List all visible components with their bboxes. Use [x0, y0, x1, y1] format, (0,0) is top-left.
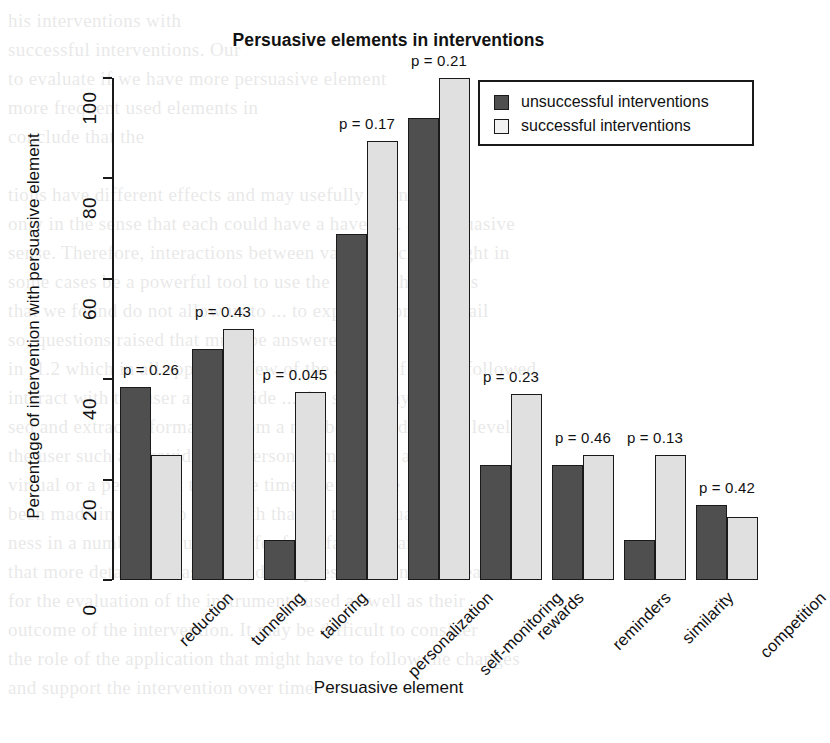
pvalue-label-tailoring: p = 0.045 [250, 366, 340, 383]
y-axis-tick-label: 40 [79, 379, 101, 439]
legend-label: unsuccessful interventions [521, 93, 709, 111]
pvalue-label-self-monitoring: p = 0.21 [394, 52, 484, 69]
bar-competition-successful [727, 517, 758, 580]
legend-entry: successful interventions [494, 114, 752, 138]
y-axis-tick [103, 177, 112, 179]
y-axis-tick [103, 479, 112, 481]
y-axis-tick-label: 100 [79, 78, 101, 138]
x-axis-label-competition: competition [756, 588, 830, 662]
y-axis-title: Percentage of intervention with persuasi… [24, 116, 44, 536]
legend-swatch-icon [494, 95, 509, 110]
bar-self-monitoring-successful [439, 78, 470, 580]
x-axis-label-reminders: reminders [609, 588, 675, 654]
x-axis-title: Persuasive element [0, 678, 777, 698]
y-axis-tick [103, 579, 112, 581]
y-axis-line [112, 78, 114, 580]
bar-similarity-successful [655, 455, 686, 581]
y-axis-tick-label: 80 [79, 178, 101, 238]
y-axis-tick-label: 0 [79, 580, 101, 640]
x-axis-label-reduction: reduction [175, 588, 237, 650]
bar-reminders-unsuccessful [552, 465, 583, 580]
legend-label: successful interventions [521, 117, 691, 135]
bar-personalization-unsuccessful [336, 234, 367, 580]
chart-title: Persuasive elements in interventions [0, 30, 777, 51]
bar-reduction-unsuccessful [120, 387, 151, 580]
chart-legend: unsuccessful interventions successful in… [478, 80, 754, 146]
pvalue-label-similarity: p = 0.13 [610, 429, 700, 446]
bar-similarity-unsuccessful [624, 540, 655, 580]
bar-rewards-successful [511, 394, 542, 580]
y-axis-tick-label: 20 [79, 480, 101, 540]
y-axis-tick [103, 378, 112, 380]
bar-reminders-successful [583, 455, 614, 581]
bar-tailoring-unsuccessful [264, 540, 295, 580]
bar-tailoring-successful [295, 392, 326, 580]
bar-self-monitoring-unsuccessful [408, 118, 439, 580]
pvalue-label-competition: p = 0.42 [682, 479, 772, 496]
pvalue-label-tunneling: p = 0.43 [178, 303, 268, 320]
bar-tunneling-unsuccessful [192, 349, 223, 580]
bar-personalization-successful [367, 141, 398, 580]
legend-swatch-icon [494, 119, 509, 134]
bar-reduction-successful [151, 455, 182, 581]
x-axis-label-tunneling: tunneling [247, 588, 308, 649]
x-axis-label-similarity: similarity [678, 588, 738, 648]
x-axis-label-tailoring: tailoring [316, 588, 371, 643]
bar-rewards-unsuccessful [480, 465, 511, 580]
y-axis-tick-label: 60 [79, 279, 101, 339]
legend-entry: unsuccessful interventions [494, 90, 752, 114]
pvalue-label-reduction: p = 0.26 [106, 361, 196, 378]
bar-competition-unsuccessful [696, 505, 727, 580]
pvalue-label-rewards: p = 0.23 [466, 368, 556, 385]
pvalue-label-personalization: p = 0.17 [322, 115, 412, 132]
y-axis-tick [103, 77, 112, 79]
y-axis-tick [103, 278, 112, 280]
